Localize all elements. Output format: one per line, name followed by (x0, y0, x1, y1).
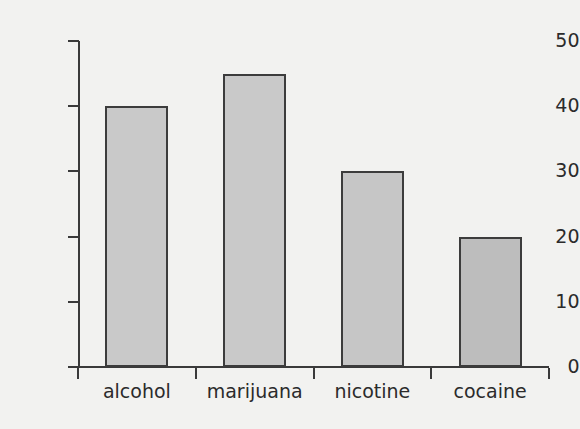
x-label-alcohol: alcohol (78, 381, 196, 402)
y-tick-mark (68, 170, 79, 172)
x-tick-mark (313, 368, 315, 379)
y-tick-label: 20 (534, 227, 580, 246)
y-tick-label: 30 (534, 161, 580, 180)
bar-marijuana (223, 74, 286, 367)
x-tick-mark (430, 368, 432, 379)
x-label-marijuana: marijuana (196, 381, 314, 402)
bar-alcohol (105, 106, 168, 367)
y-tick-mark (68, 236, 79, 238)
bar-chart: 01020304050 alcoholmarijuananicotinecoca… (0, 0, 580, 429)
bar-nicotine (341, 171, 404, 367)
y-tick-mark (68, 105, 79, 107)
y-tick-mark (68, 301, 79, 303)
y-tick-label: 40 (534, 96, 580, 115)
x-tick-mark (195, 368, 197, 379)
x-label-nicotine: nicotine (314, 381, 432, 402)
y-tick-label: 50 (534, 31, 580, 50)
x-label-cocaine: cocaine (431, 381, 549, 402)
x-tick-mark (77, 368, 79, 379)
y-axis-line (78, 41, 80, 368)
x-tick-mark (548, 368, 550, 379)
y-tick-label: 10 (534, 292, 580, 311)
bar-cocaine (459, 237, 522, 367)
y-tick-mark (68, 40, 79, 42)
